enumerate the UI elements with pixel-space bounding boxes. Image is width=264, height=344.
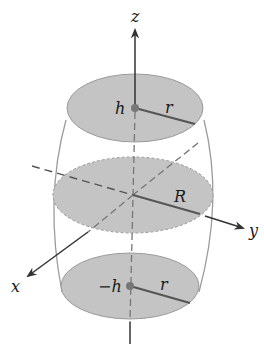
x-axis-label: x [11, 277, 20, 296]
middle-radius-label: R [173, 187, 186, 206]
z-axis-label: z [130, 7, 140, 26]
barrel-cross-section-diagram: z y x h r R −h r [0, 0, 264, 344]
top-height-label: h [115, 99, 125, 118]
bottom-center-dot [126, 282, 134, 290]
bottom-radius-label: r [160, 275, 169, 294]
top-radius-label: r [165, 98, 174, 117]
bottom-height-label: −h [98, 277, 122, 296]
top-center-dot [131, 104, 139, 112]
y-axis-label: y [248, 221, 259, 240]
